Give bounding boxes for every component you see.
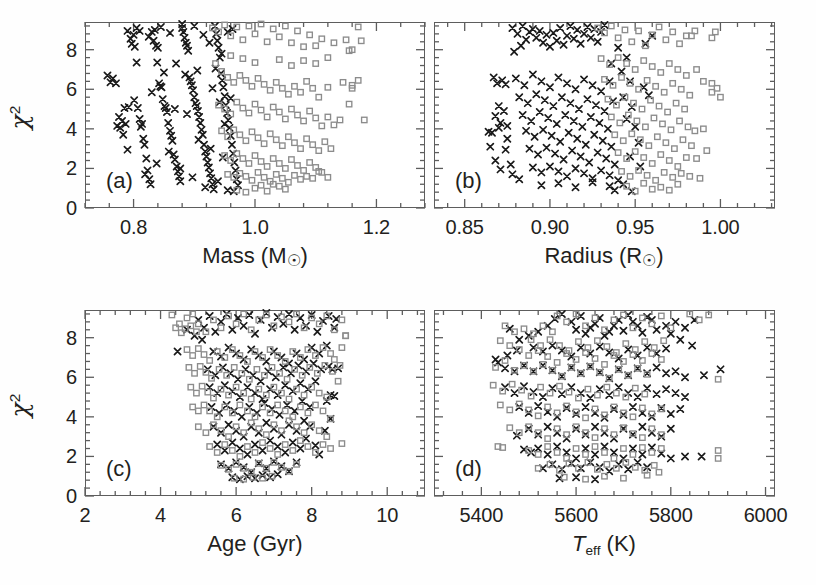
panel-b-plot-area [434,22,775,208]
panel-a-xaxis-title: Mass (M☉) [202,243,308,269]
panel-d [434,310,775,496]
panel-d-xtick-0: 5400 [460,504,504,527]
panel-b-xaxis-title: Radius (R☉) [544,243,663,269]
panel-c-xtick-1: 4 [155,504,166,527]
panel-a-ytick-3: 6 [51,78,77,101]
panel-d-xtick-1: 5600 [554,504,598,527]
panel-c-label: (c) [106,456,132,482]
panel-c-ytick-3: 6 [51,366,77,389]
figure-canvas: 0.81.01.202468 (a) Mass (M☉) χ2 0.850.90… [0,0,816,585]
panel-d-plot-area [434,310,775,496]
panel-d-xtick-2: 5800 [649,504,693,527]
panel-c-plot-area [85,310,425,496]
panel-a [85,22,425,208]
panel-a-xtick-0: 0.8 [120,216,147,239]
panel-c-xtick-3: 8 [306,504,317,527]
panel-a-plot-area [85,22,425,208]
panel-c-xtick-2: 6 [231,504,242,527]
panel-c-ytick-2: 4 [51,405,77,428]
panel-a-yaxis-title: χ2 [5,106,34,130]
panel-a-ytick-4: 8 [51,38,77,61]
panel-a-ytick-0: 0 [51,197,77,220]
panel-c-xaxis-title: Age (Gyr) [207,531,302,557]
panel-c [85,310,425,496]
panel-b-xtick-3: 1.00 [701,216,739,239]
panel-d-xaxis-title: Teff (K) [572,531,636,558]
panel-a-xtick-2: 1.2 [363,216,390,239]
panel-c-xtick-4: 10 [376,504,398,527]
panel-c-ytick-4: 8 [51,326,77,349]
panel-b-xtick-1: 0.90 [531,216,569,239]
panel-c-ytick-0: 0 [51,485,77,508]
panel-b-label: (b) [455,168,482,194]
panel-a-xtick-1: 1.0 [241,216,268,239]
panel-b [434,22,775,208]
panel-d-label: (d) [455,456,482,482]
panel-c-xtick-0: 2 [80,504,91,527]
panel-a-label: (a) [106,168,133,194]
panel-c-ytick-1: 2 [51,445,77,468]
panel-b-xtick-2: 0.95 [616,216,654,239]
panel-a-ytick-1: 2 [51,157,77,180]
panel-a-ytick-2: 4 [51,117,77,140]
panel-b-xtick-0: 0.85 [446,216,484,239]
panel-d-xtick-3: 6000 [744,504,788,527]
panel-c-yaxis-title: χ2 [5,394,34,418]
